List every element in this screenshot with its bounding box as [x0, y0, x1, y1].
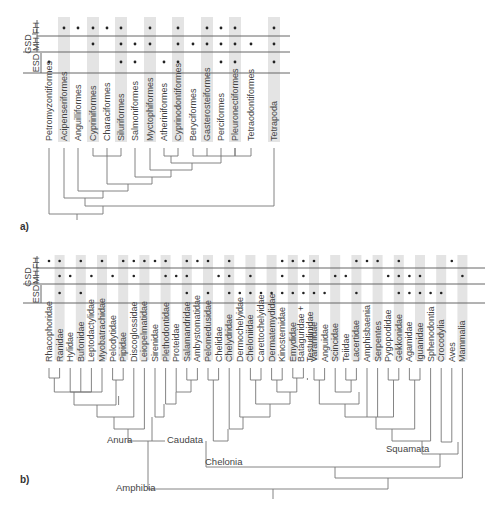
taxon-label: Pelodytidae: [108, 315, 118, 362]
clade-label-squamata: Squamata: [386, 443, 430, 454]
taxon-label: Aves: [447, 342, 457, 362]
taxon-label: Mammalia: [457, 320, 467, 362]
trait-dot-fh: [186, 260, 189, 263]
trait-dot-mh: [120, 43, 123, 46]
trait-dot-esd: [323, 292, 326, 295]
trait-dot-esd: [207, 292, 210, 295]
taxon-label: Pipidae: [118, 332, 128, 362]
trait-dot-fh: [273, 27, 276, 30]
trait-dot-esd: [80, 292, 83, 295]
trait-dot-mh: [220, 43, 223, 46]
taxon-label: Leptodactylidae: [86, 299, 96, 362]
taxon-label: Pelomedusidae: [203, 300, 213, 362]
taxon-label: Tetrapoda: [269, 101, 279, 141]
trait-dot-mh: [334, 275, 337, 278]
trait-dot-mh: [281, 275, 284, 278]
taxon-label: Rhacophoridae: [44, 301, 54, 362]
trait-dot-fh: [281, 260, 284, 263]
clade-label-caudata: Caudata: [167, 434, 204, 445]
trait-dot-fh: [398, 260, 401, 263]
trait-dot-fh: [355, 260, 358, 263]
phylogeny-figure: GSDFHMHESDPetromyzontiformesAcipenserifo…: [0, 0, 497, 515]
taxon-label: Bufonidae: [76, 321, 86, 362]
taxon-label: Gekkonidae: [394, 314, 404, 362]
trait-dot-esd: [134, 61, 137, 64]
taxon-label: Amphisbaenia: [362, 305, 372, 362]
trait-dot-mh: [302, 275, 305, 278]
trait-dot-fh: [376, 260, 379, 263]
taxon-label: Tetraodontiformes: [246, 68, 256, 141]
panel-b: GSDFHMHESDRhacophoridaeRanidaeHylidaeBuf…: [20, 255, 485, 499]
trait-dot-fh: [122, 260, 125, 263]
trait-dot-esd: [163, 61, 166, 64]
taxon-label: Scincidae: [330, 323, 340, 362]
trait-dot-mh: [461, 275, 464, 278]
taxon-label: Anguidae: [320, 324, 330, 362]
taxon-label: Perciformes: [216, 92, 226, 141]
taxon-label: Sphenodontia: [426, 306, 436, 362]
panel-label-b: b): [20, 474, 29, 485]
taxon-label: Ranidae: [55, 328, 65, 362]
trait-dot-esd: [228, 292, 231, 295]
taxon-label: Plethodontidae: [161, 302, 171, 362]
trait-dot-esd: [220, 61, 223, 64]
trait-dot-mh: [419, 275, 422, 278]
taxon-label: Dermochelyidae: [235, 297, 245, 362]
trait-dot-mh: [134, 43, 137, 46]
taxon-label: Leiopelmatidae: [139, 301, 149, 362]
trait-dot-fh: [58, 260, 61, 263]
trait-dot-fh: [220, 27, 223, 30]
trait-dot-mh: [250, 43, 253, 46]
trait-dot-esd: [302, 292, 305, 295]
trait-dot-mh: [177, 43, 180, 46]
trait-dot-fh: [80, 260, 83, 263]
trait-dot-mh: [69, 275, 72, 278]
taxon-label: Sirenidae: [150, 324, 160, 362]
trait-dot-mh: [164, 275, 167, 278]
taxon-label: Siluriformes: [116, 93, 126, 141]
taxon-label: Varanidae: [309, 322, 319, 362]
taxon-label: Cyprinodontiformes: [173, 62, 183, 141]
trait-dot-mh: [111, 275, 114, 278]
clade-label-chelonia: Chelonia: [205, 456, 243, 467]
trait-dot-fh: [206, 27, 209, 30]
trait-dot-mh: [234, 43, 237, 46]
taxon-label: Pleuronectiformes: [230, 68, 240, 141]
taxon-label: Cheloniidae: [245, 314, 255, 362]
trait-dot-mh: [345, 275, 348, 278]
row-header-mh: MH: [31, 37, 41, 51]
trait-dot-fh: [313, 260, 316, 263]
taxon-label: Serpentes: [373, 320, 383, 362]
taxon-label: Myobatrachidae: [97, 298, 107, 362]
row-header-esd: ESD: [31, 284, 41, 303]
trait-dot-esd: [419, 292, 422, 295]
trait-dot-mh: [228, 275, 231, 278]
trait-dot-mh: [149, 43, 152, 46]
taxon-label: Discoglossidae: [129, 301, 139, 362]
trait-dot-fh: [366, 260, 369, 263]
trait-dot-mh: [408, 275, 411, 278]
trait-dot-esd: [120, 61, 123, 64]
trait-dot-esd: [408, 292, 411, 295]
trait-dot-fh: [207, 260, 210, 263]
clade-label-amphibia: Amphibia: [116, 482, 156, 493]
trait-dot-fh: [133, 260, 136, 263]
trait-dot-fh: [77, 27, 80, 30]
trait-dot-mh: [192, 43, 195, 46]
trait-dot-esd: [249, 292, 252, 295]
trait-dot-esd: [234, 61, 237, 64]
taxon-label: Salmoniformes: [130, 80, 140, 141]
trait-dot-esd: [355, 292, 358, 295]
trait-dot-fh: [234, 27, 237, 30]
trait-dot-mh: [133, 275, 136, 278]
trait-dot-fh: [63, 27, 66, 30]
taxon-label: Proteidae: [171, 323, 181, 362]
trait-dot-fh: [101, 260, 104, 263]
taxon-label: Beryciformes: [188, 88, 198, 141]
trait-dot-esd: [239, 292, 242, 295]
trait-dot-mh: [92, 43, 95, 46]
trait-dot-fh: [177, 27, 180, 30]
taxon-label: Pygopodidae: [383, 309, 393, 362]
taxon-label: Myctophiformes: [145, 77, 155, 141]
trait-dot-fh: [451, 260, 454, 263]
